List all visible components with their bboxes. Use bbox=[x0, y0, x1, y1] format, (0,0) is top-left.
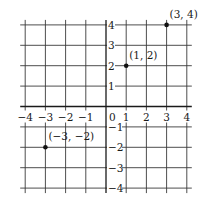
y-tick-label: −1 bbox=[108, 121, 123, 133]
point-label: (1, 2) bbox=[129, 49, 157, 61]
y-tick-label: −3 bbox=[108, 162, 123, 174]
x-tick-label: −2 bbox=[58, 111, 73, 123]
y-tick-label: 4 bbox=[108, 19, 115, 31]
x-tick-label: 2 bbox=[143, 111, 150, 123]
x-tick-label: 4 bbox=[183, 111, 190, 123]
coordinate-plane: −4−3−2−1012344321−1−2−3−4 (3, 4)(1, 2)(−… bbox=[0, 0, 203, 201]
x-tick-label: 3 bbox=[163, 111, 170, 123]
data-point bbox=[164, 23, 169, 28]
point-label: (−3, −2) bbox=[48, 130, 94, 142]
x-tick-label: 1 bbox=[123, 111, 130, 123]
axes bbox=[20, 20, 192, 193]
y-tick-label: 1 bbox=[108, 80, 115, 92]
y-tick-label: 2 bbox=[108, 60, 115, 72]
y-tick-label: −4 bbox=[108, 182, 124, 194]
x-tick-label: −1 bbox=[78, 111, 93, 123]
x-tick-label: −3 bbox=[38, 111, 53, 123]
x-tick-label: −4 bbox=[17, 111, 33, 123]
point-label: (3, 4) bbox=[170, 8, 198, 20]
y-tick-label: 3 bbox=[108, 39, 115, 51]
y-tick-label: −2 bbox=[108, 141, 123, 153]
data-point bbox=[124, 63, 129, 68]
data-point bbox=[43, 145, 48, 150]
